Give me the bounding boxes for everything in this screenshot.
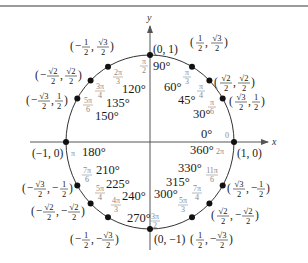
svg-text:−: − — [75, 39, 82, 51]
coord-210: ( − √3 2 , − 1 2 ) — [22, 179, 73, 199]
svg-text:): ) — [261, 95, 265, 108]
point-135 — [88, 78, 94, 84]
radian-7pi-6: 7π 6 — [82, 166, 92, 184]
svg-text:2: 2 — [69, 76, 73, 86]
degree-150: 150° — [95, 109, 119, 123]
svg-text:7π: 7π — [83, 166, 91, 175]
svg-text:−: − — [210, 232, 217, 244]
svg-text:1: 1 — [198, 230, 202, 240]
svg-text:2: 2 — [57, 101, 61, 111]
svg-text:): ) — [115, 233, 119, 246]
radian-pi-4: π 4 — [197, 82, 205, 100]
point-45 — [206, 78, 212, 84]
svg-text:1: 1 — [254, 92, 258, 102]
svg-text:−: − — [96, 232, 103, 244]
svg-text:(: ( — [229, 95, 233, 108]
coord-120: ( − 1 2 , √3 2 ) — [70, 37, 114, 57]
svg-text:π: π — [199, 82, 203, 91]
svg-text:,: , — [248, 95, 251, 108]
radian-5pi-4: 5π 4 — [95, 184, 105, 202]
svg-text:−: − — [235, 208, 242, 220]
svg-text:2: 2 — [221, 216, 225, 226]
svg-text:√3: √3 — [213, 33, 222, 43]
coord-150: ( − √3 2 , 1 2 ) — [26, 91, 68, 111]
coord-0-m1: (0, −1) — [154, 233, 186, 246]
svg-text:√2: √2 — [240, 73, 249, 83]
svg-text:2: 2 — [215, 43, 219, 53]
svg-text:−: − — [75, 232, 82, 244]
svg-text:): ) — [251, 76, 255, 89]
radian-0: 0 — [225, 131, 229, 140]
svg-text:4: 4 — [199, 91, 203, 100]
svg-text:2: 2 — [239, 102, 243, 112]
svg-text:4: 4 — [98, 193, 102, 202]
svg-text:): ) — [78, 69, 82, 82]
svg-text:,: , — [56, 205, 59, 218]
degree-210: 210° — [96, 163, 120, 177]
svg-text:2π: 2π — [114, 68, 122, 77]
svg-text:2: 2 — [51, 76, 55, 86]
degree-30: 30° — [193, 107, 211, 121]
svg-text:5π: 5π — [96, 184, 104, 193]
svg-text:6: 6 — [85, 175, 89, 184]
coord-225: ( − √2 2 , − √2 2 ) — [31, 202, 85, 222]
svg-text:,: , — [51, 94, 54, 107]
svg-text:√3: √3 — [104, 230, 113, 240]
svg-text:6: 6 — [210, 107, 214, 116]
coord-240: ( − 1 2 , − √3 2 ) — [70, 230, 119, 250]
svg-text:): ) — [255, 209, 259, 222]
degree-360: 360° — [190, 143, 214, 157]
svg-text:2: 2 — [101, 47, 105, 57]
point-300 — [189, 214, 195, 220]
coord-315: ( √2 2 , − √2 2 ) — [211, 206, 259, 226]
svg-text:3π: 3π — [151, 212, 159, 221]
svg-text:√3: √3 — [99, 37, 108, 47]
svg-text:,: , — [91, 233, 94, 246]
svg-text:,: , — [246, 182, 249, 195]
point-225 — [88, 201, 94, 207]
svg-text:√2: √2 — [45, 202, 54, 212]
point-210 — [74, 183, 80, 189]
svg-text:2: 2 — [254, 102, 258, 112]
svg-text:,: , — [60, 69, 63, 82]
degree-120: 120° — [122, 82, 146, 96]
svg-text:−: − — [52, 181, 59, 193]
svg-text:2: 2 — [72, 212, 76, 222]
svg-text:5π: 5π — [179, 196, 187, 205]
svg-text:2: 2 — [142, 66, 146, 75]
svg-text:11π: 11π — [206, 166, 218, 175]
svg-text:,: , — [47, 182, 50, 195]
svg-text:): ) — [64, 94, 68, 107]
svg-text:2: 2 — [38, 189, 42, 199]
radian-5pi-6: 5π 6 — [83, 96, 93, 114]
point-150 — [74, 96, 80, 102]
degree-330: 330° — [178, 161, 202, 175]
degree-45: 45° — [178, 93, 196, 107]
coord-m1-0: (−1, 0) — [32, 147, 64, 160]
degree-90: 90° — [153, 59, 171, 73]
degree-60: 60° — [164, 80, 182, 94]
point-30 — [220, 96, 226, 102]
svg-text:3: 3 — [116, 77, 120, 86]
svg-text:2: 2 — [47, 212, 51, 222]
coord-60: ( 1 2 , √3 2 ) — [190, 33, 228, 53]
svg-text:): ) — [266, 182, 270, 195]
svg-text:1: 1 — [259, 179, 263, 189]
svg-text:5π: 5π — [84, 96, 92, 105]
svg-text:2: 2 — [84, 47, 88, 57]
svg-text:−: − — [36, 204, 43, 216]
svg-text:(: ( — [70, 233, 74, 246]
svg-text:1: 1 — [62, 179, 66, 189]
svg-text:(: ( — [70, 40, 74, 53]
svg-text:): ) — [69, 182, 73, 195]
svg-text:3: 3 — [185, 77, 189, 86]
svg-text:4: 4 — [98, 91, 102, 100]
coord-30: ( √3 2 , 1 2 ) — [229, 92, 265, 112]
svg-text:(: ( — [227, 182, 231, 195]
coord-300: ( 1 2 , − √3 2 ) — [190, 230, 233, 250]
point-60 — [189, 64, 195, 70]
svg-text:1: 1 — [84, 37, 88, 47]
point-180 — [63, 139, 69, 145]
degree-270: 270° — [127, 211, 151, 225]
coord-330: ( √3 2 , − 1 2 ) — [227, 179, 270, 199]
